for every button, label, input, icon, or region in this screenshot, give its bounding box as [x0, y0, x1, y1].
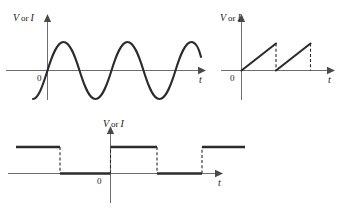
- waveform-figure: VorI 0 t VorI 0 t: [0, 0, 350, 214]
- sawtooth-wave-panel: VorI 0 t: [215, 0, 350, 105]
- square-wave-plot: [0, 105, 250, 214]
- square-wave-panel: VorI 0 t: [0, 105, 250, 214]
- current-symbol: I: [121, 118, 124, 129]
- x-axis-label-sawtooth: t: [328, 75, 331, 85]
- origin-label-sawtooth: 0: [230, 74, 235, 83]
- y-axis-label-square: VorI: [103, 119, 124, 129]
- y-axis-label-sawtooth: VorI: [220, 13, 241, 23]
- x-axis-label-sine: t: [199, 75, 202, 85]
- or-conjunction: or: [111, 119, 119, 129]
- voltage-symbol: V: [103, 118, 109, 129]
- voltage-symbol: V: [220, 12, 226, 23]
- x-axis-label-square: t: [218, 178, 221, 188]
- y-axis-arrow-sine: [44, 14, 51, 22]
- sine-wave-panel: VorI 0 t: [0, 0, 215, 105]
- origin-label-sine: 0: [37, 74, 42, 83]
- or-conjunction: or: [21, 13, 29, 23]
- sawtooth-ramp-2: [276, 44, 311, 71]
- origin-label-square: 0: [97, 177, 102, 186]
- sawtooth-ramp-1: [242, 44, 277, 71]
- y-axis-label-sine: VorI: [13, 13, 34, 23]
- current-symbol: I: [238, 12, 241, 23]
- voltage-symbol: V: [13, 12, 19, 23]
- or-conjunction: or: [228, 13, 236, 23]
- current-symbol: I: [31, 12, 34, 23]
